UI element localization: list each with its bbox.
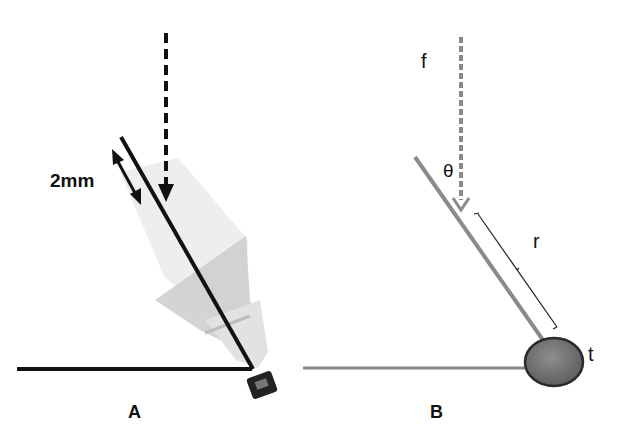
angle-label-theta: θ — [443, 160, 454, 182]
diagram-canvas — [0, 0, 619, 445]
panel-b — [303, 37, 583, 386]
radius-bracket — [474, 213, 557, 329]
length-label-2mm: 2mm — [50, 170, 94, 192]
panel-label-b: B — [430, 402, 443, 423]
force-label-f: f — [421, 50, 427, 73]
panel-label-a: A — [128, 402, 141, 423]
torque-label-t: t — [588, 343, 594, 366]
pivot-point — [525, 338, 583, 386]
lever-line — [415, 157, 545, 343]
radius-label-r: r — [533, 230, 540, 253]
force-arrow-b — [453, 37, 469, 210]
shuttle-base — [246, 370, 278, 400]
shuttlecock-icon — [120, 158, 278, 400]
panel-a — [17, 33, 278, 400]
